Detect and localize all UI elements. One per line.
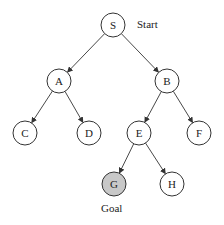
edge-s-b	[121, 34, 158, 72]
node-label: D	[85, 127, 93, 139]
node-label: E	[136, 127, 143, 139]
goal-label: Goal	[101, 202, 122, 214]
node-label: F	[196, 127, 202, 139]
node-f: F	[187, 121, 211, 145]
node-label: G	[110, 178, 118, 190]
node-label: H	[168, 178, 176, 190]
node-h: H	[160, 172, 184, 196]
edge-e-h	[146, 143, 166, 173]
edge-b-f	[173, 91, 192, 122]
edge-a-d	[65, 91, 83, 122]
node-label: B	[163, 75, 170, 87]
node-label: C	[21, 127, 28, 139]
start-label: Start	[137, 18, 158, 30]
edge-e-g	[120, 144, 134, 173]
edges	[32, 34, 193, 174]
node-label: A	[55, 75, 63, 87]
node-b: B	[155, 69, 179, 93]
node-a: A	[47, 69, 71, 93]
node-g: G	[102, 172, 126, 196]
edge-a-c	[32, 91, 53, 122]
node-d: D	[77, 121, 101, 145]
node-label: S	[110, 19, 116, 31]
node-e: E	[127, 121, 151, 145]
edge-s-a	[68, 34, 105, 72]
node-s: S	[101, 13, 125, 37]
edge-b-e	[145, 92, 161, 122]
node-c: C	[13, 121, 37, 145]
search-tree-diagram: SABCDEFGH Start Goal	[0, 0, 224, 225]
